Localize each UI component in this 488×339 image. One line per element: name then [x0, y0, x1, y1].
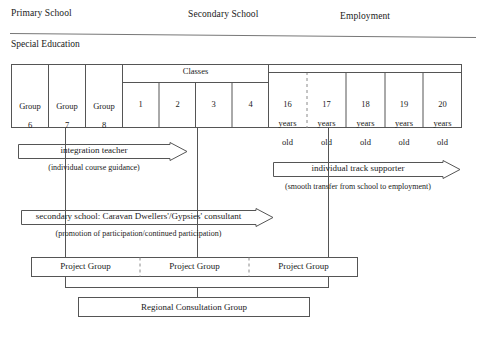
- arrow-label-individual-track-supporter: individual track supporter: [273, 163, 443, 173]
- project-group-1: Project Group: [31, 261, 140, 271]
- age-17-line3: old: [321, 137, 332, 147]
- diagram-canvas: Primary School Secondary School Employme…: [0, 0, 488, 339]
- project-group-row: Project Group Project Group Project Grou…: [31, 257, 358, 277]
- age-18-line3: old: [360, 137, 371, 147]
- regional-consultation-group-label: Regional Consultation Group: [79, 302, 309, 312]
- arrow-sublabel-integration-teacher: (individual course guidance): [18, 163, 170, 172]
- stage-divider-rule: [10, 26, 476, 33]
- age-16-line3: old: [282, 137, 293, 147]
- arrow-sublabel-individual-track-supporter: (smooth transfer from school to employme…: [258, 182, 458, 191]
- stage-label-employment: Employment: [340, 11, 390, 21]
- arrow-label-integration-teacher: integration teacher: [18, 145, 170, 155]
- stage-label-secondary-school: Secondary School: [188, 9, 258, 19]
- age-19-line3: old: [399, 137, 410, 147]
- regional-consultation-group-box: Regional Consultation Group: [78, 297, 310, 317]
- project-group-2: Project Group: [140, 261, 249, 271]
- special-education-label: Special Education: [11, 39, 80, 49]
- table-grid-lines: [11, 64, 462, 128]
- arrow-sublabel-secondary-school-consultant: (promotion of participation/continued pa…: [21, 229, 256, 238]
- education-track-table: Group 6 Group 7 Group 8 Classes 1 2 3 4 …: [11, 64, 462, 128]
- age-20-line3: old: [437, 137, 448, 147]
- arrow-label-secondary-school-consultant: secondary school: Caravan Dwellers'/Gyps…: [21, 211, 256, 221]
- stage-label-primary-school: Primary School: [11, 8, 72, 18]
- project-group-3: Project Group: [249, 261, 358, 271]
